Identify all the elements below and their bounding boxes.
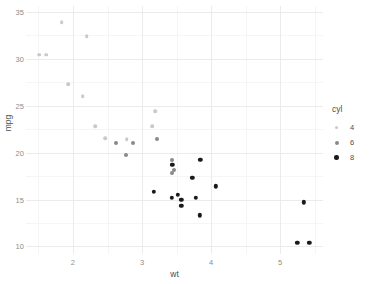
data-point bbox=[151, 124, 155, 128]
gridline-vertical-major bbox=[142, 6, 143, 254]
data-point bbox=[81, 94, 85, 98]
data-point bbox=[67, 82, 71, 86]
gridline-horizontal-major bbox=[26, 153, 323, 154]
data-point bbox=[307, 241, 311, 245]
legend-dot-icon bbox=[334, 155, 338, 159]
x-tick-label: 5 bbox=[268, 258, 292, 267]
data-point bbox=[214, 184, 218, 188]
data-point bbox=[93, 124, 97, 128]
data-point bbox=[153, 109, 157, 113]
gridline-vertical-major bbox=[211, 6, 212, 254]
gridline-horizontal-major bbox=[26, 106, 323, 107]
legend-dot-icon bbox=[335, 141, 339, 145]
y-axis-title: mpg bbox=[3, 103, 13, 143]
legend-key bbox=[330, 141, 343, 145]
data-point bbox=[170, 171, 174, 175]
gridline-horizontal-minor bbox=[26, 223, 323, 224]
legend-item[interactable]: 8 bbox=[330, 150, 372, 165]
legend-item[interactable]: 4 bbox=[330, 120, 372, 135]
legend-title: cyl bbox=[332, 104, 372, 114]
chart-root: 101520253035 2345 wt mpg cyl 468 bbox=[0, 0, 373, 284]
data-point bbox=[114, 141, 118, 145]
legend: cyl 468 bbox=[330, 104, 372, 165]
data-point bbox=[60, 20, 64, 24]
legend-items: 468 bbox=[330, 120, 372, 165]
gridline-horizontal-major bbox=[26, 246, 323, 247]
data-point bbox=[198, 213, 202, 217]
x-tick-label: 2 bbox=[61, 258, 85, 267]
legend-label: 4 bbox=[350, 123, 354, 132]
legend-label: 6 bbox=[350, 138, 354, 147]
y-tick-label: 35 bbox=[2, 7, 24, 16]
data-point bbox=[103, 137, 107, 141]
gridline-horizontal-major bbox=[26, 12, 323, 13]
data-point bbox=[85, 34, 89, 38]
gridline-horizontal-minor bbox=[26, 129, 323, 130]
data-point bbox=[131, 141, 135, 145]
legend-item[interactable]: 6 bbox=[330, 135, 372, 150]
legend-key bbox=[330, 126, 343, 130]
y-tick-label: 20 bbox=[2, 148, 24, 157]
gridline-horizontal-minor bbox=[26, 35, 323, 36]
data-point bbox=[170, 158, 174, 162]
data-point bbox=[302, 200, 306, 204]
gridline-horizontal-major bbox=[26, 59, 323, 60]
data-point bbox=[170, 163, 174, 167]
data-point bbox=[176, 193, 180, 197]
data-point bbox=[190, 176, 194, 180]
data-point bbox=[38, 53, 42, 57]
gridline-vertical-major bbox=[73, 6, 74, 254]
y-tick-label: 15 bbox=[2, 195, 24, 204]
data-point bbox=[45, 53, 49, 57]
gridline-horizontal-minor bbox=[26, 82, 323, 83]
data-point bbox=[295, 241, 299, 245]
gridline-horizontal-major bbox=[26, 200, 323, 201]
data-point bbox=[155, 137, 159, 141]
legend-key bbox=[330, 155, 343, 159]
plot-panel bbox=[26, 6, 323, 254]
x-tick-label: 3 bbox=[130, 258, 154, 267]
x-axis-title: wt bbox=[26, 269, 323, 279]
y-tick-label: 10 bbox=[2, 242, 24, 251]
legend-label: 8 bbox=[350, 153, 354, 162]
x-tick-label: 4 bbox=[199, 258, 223, 267]
data-point bbox=[179, 197, 183, 201]
data-point bbox=[125, 138, 129, 142]
legend-dot-icon bbox=[335, 126, 339, 130]
data-point bbox=[124, 153, 128, 157]
data-point bbox=[198, 158, 202, 162]
gridline-horizontal-minor bbox=[26, 176, 323, 177]
gridline-vertical-major bbox=[280, 6, 281, 254]
data-point bbox=[179, 204, 183, 208]
data-point bbox=[152, 190, 156, 194]
y-tick-label: 30 bbox=[2, 54, 24, 63]
